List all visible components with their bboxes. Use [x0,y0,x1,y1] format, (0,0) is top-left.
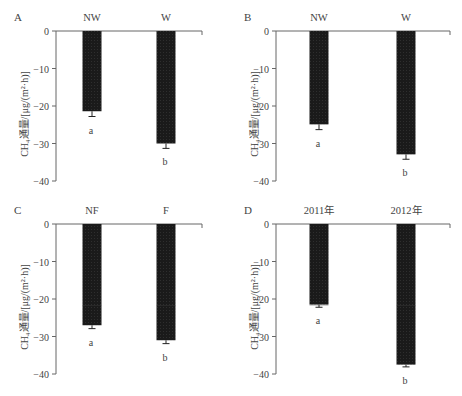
significance-letter: b [163,352,168,363]
panel-b: B0−10−20−30−40CH₄通量/[μg/(m²·h)]aNWbW [244,11,450,187]
category-label: F [163,205,169,216]
category-label: W [401,12,411,23]
y-tick-label: −10 [33,257,49,268]
y-tick-label: −40 [253,369,269,380]
y-axis-label: CH₄通量/[μg/(m²·h)] [249,264,261,350]
significance-letter: b [163,156,168,167]
bar [83,31,102,111]
panel-a: A0−10−20−30−40CH₄通量/[μg/(m²·h)]aNWbW [14,11,202,187]
significance-letter: a [89,125,94,136]
bar [157,224,176,340]
y-axis-label: CH₄通量/[μg/(m²·h)] [249,71,261,157]
y-axis-label: CH₄通量/[μg/(m²·h)] [19,71,31,157]
category-label: NF [85,205,99,216]
y-tick-label: −20 [33,101,49,112]
bar [310,31,329,124]
category-label: 2012年 [391,204,422,216]
panel-letter: B [244,11,251,23]
significance-letter: b [403,375,408,386]
panel-letter: A [14,11,22,23]
y-tick-label: −40 [33,176,49,187]
y-tick-label: −30 [33,332,49,343]
significance-letter: b [403,167,408,178]
y-tick-label: −40 [253,176,269,187]
bar [310,224,329,305]
y-tick-label: 0 [264,219,269,230]
category-label: NW [83,12,101,23]
y-tick-label: −30 [33,139,49,150]
panel-c: C0−10−20−30−40CH₄通量/[μg/(m²·h)]aNFbF [14,204,202,380]
figure: A0−10−20−30−40CH₄通量/[μg/(m²·h)]aNWbWB0−1… [0,0,462,396]
significance-letter: a [89,337,94,348]
bar [397,224,416,365]
bar [83,224,102,325]
panel-d: D0−10−20−30−40CH₄通量/[μg/(m²·h)]a2011年b20… [244,204,450,386]
panel-letter: C [14,204,21,216]
y-tick-label: 0 [44,26,49,37]
significance-letter: a [316,138,321,149]
significance-letter: a [316,315,321,326]
y-tick-label: −10 [33,64,49,75]
y-tick-label: −40 [33,369,49,380]
y-tick-label: −20 [33,294,49,305]
y-tick-label: 0 [44,219,49,230]
panel-letter: D [244,204,252,216]
category-label: W [161,12,171,23]
category-label: 2011年 [304,204,335,216]
category-label: NW [310,12,328,23]
y-axis-label: CH₄通量/[μg/(m²·h)] [19,264,31,350]
y-tick-label: 0 [264,26,269,37]
bar [397,31,416,154]
bar [157,31,176,144]
